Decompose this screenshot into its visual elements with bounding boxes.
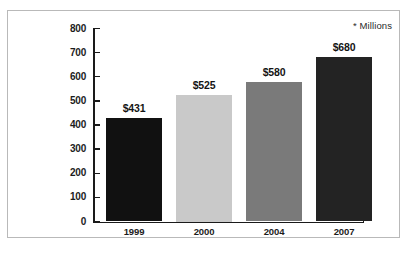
bar-value-label-2000: $525 bbox=[164, 80, 244, 91]
y-tick-label-300: 300 bbox=[46, 144, 86, 154]
y-tick-800 bbox=[93, 28, 100, 29]
x-axis-line bbox=[93, 222, 364, 224]
y-tick-700 bbox=[93, 52, 100, 53]
y-tick-0 bbox=[93, 221, 100, 222]
y-tick-label-200: 200 bbox=[46, 168, 86, 178]
y-tick-400 bbox=[93, 124, 100, 125]
y-tick-label-500: 500 bbox=[46, 96, 86, 106]
x-category-label-1999: 1999 bbox=[94, 226, 174, 237]
x-category-label-2007: 2007 bbox=[304, 226, 384, 237]
y-tick-label-400: 400 bbox=[46, 120, 86, 130]
y-tick-label-100: 100 bbox=[46, 192, 86, 202]
bar-chart-figure: * Millions 0100200300400500600700800 $43… bbox=[0, 0, 420, 254]
y-tick-label-800: 800 bbox=[46, 24, 86, 34]
bar-2004 bbox=[246, 82, 302, 222]
y-tick-300 bbox=[93, 148, 100, 149]
bar-2000 bbox=[176, 95, 232, 222]
plot-area: * Millions 0100200300400500600700800 $43… bbox=[0, 0, 420, 254]
units-annotation: * Millions bbox=[353, 20, 392, 31]
x-category-label-2000: 2000 bbox=[164, 226, 244, 237]
y-tick-500 bbox=[93, 100, 100, 101]
bar-2007 bbox=[316, 57, 372, 221]
y-tick-label-0: 0 bbox=[46, 217, 86, 227]
x-category-label-2004: 2004 bbox=[234, 226, 314, 237]
y-tick-100 bbox=[93, 197, 100, 198]
bar-value-label-2004: $580 bbox=[234, 67, 314, 78]
y-tick-200 bbox=[93, 173, 100, 174]
y-tick-label-600: 600 bbox=[46, 72, 86, 82]
bar-1999 bbox=[106, 118, 162, 222]
y-tick-label-700: 700 bbox=[46, 48, 86, 58]
y-tick-600 bbox=[93, 76, 100, 77]
bar-value-label-2007: $680 bbox=[304, 42, 384, 53]
bar-value-label-1999: $431 bbox=[94, 103, 174, 114]
